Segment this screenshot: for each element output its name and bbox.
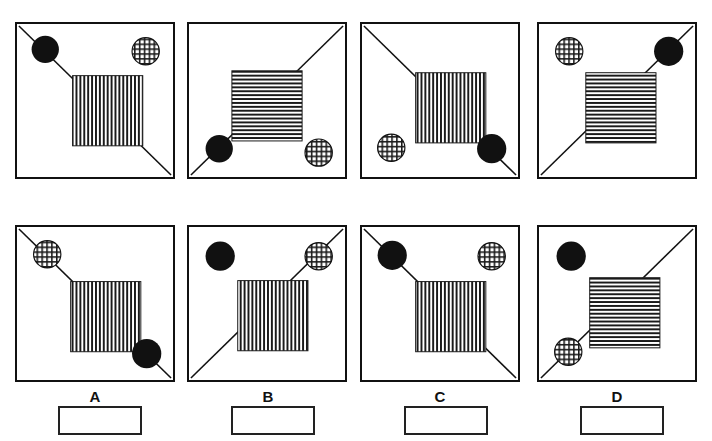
answer-box-d[interactable]	[580, 406, 664, 435]
panel-option-d[interactable]	[537, 225, 697, 382]
panel-option-c-graphic	[362, 227, 518, 380]
panel-option-d-graphic	[539, 227, 695, 380]
solid-black-circle	[206, 242, 235, 271]
panel-top-2-graphic	[189, 24, 345, 177]
vertical-striped-square	[416, 282, 486, 352]
horizontal-striped-square	[232, 71, 302, 141]
vertical-striped-square	[416, 73, 486, 143]
checkered-circle	[555, 338, 582, 365]
answer-box-c[interactable]	[404, 406, 488, 435]
panel-option-a[interactable]	[15, 225, 175, 382]
solid-black-circle	[378, 241, 407, 270]
checkered-circle	[305, 243, 332, 270]
option-label-a: A	[55, 389, 135, 405]
solid-black-circle	[132, 339, 161, 368]
solid-black-circle	[206, 135, 233, 162]
checkered-circle	[34, 241, 61, 268]
panel-top-3-graphic	[362, 24, 518, 177]
solid-black-circle	[654, 37, 683, 66]
panel-option-b[interactable]	[187, 225, 347, 382]
panel-option-b-graphic	[189, 227, 345, 380]
checkered-circle	[132, 38, 159, 65]
horizontal-striped-square	[586, 73, 656, 143]
checkered-circle	[478, 243, 505, 270]
answer-box-a[interactable]	[58, 406, 142, 435]
checkered-circle	[378, 134, 405, 161]
vertical-striped-square	[73, 76, 143, 146]
answer-box-b[interactable]	[231, 406, 315, 435]
panel-top-1-graphic	[17, 24, 173, 177]
horizontal-striped-square	[590, 278, 660, 348]
option-label-b: B	[228, 389, 308, 405]
panel-top-4-graphic	[539, 24, 695, 177]
panel-top-2	[187, 22, 347, 179]
panel-top-3	[360, 22, 520, 179]
checkered-circle	[305, 139, 332, 166]
vertical-striped-square	[71, 282, 141, 352]
option-label-c: C	[400, 389, 480, 405]
option-label-d: D	[577, 389, 657, 405]
cropped-title-strip	[0, 0, 712, 10]
solid-black-circle	[32, 36, 59, 63]
panel-option-a-graphic	[17, 227, 173, 380]
vertical-striped-square	[238, 281, 308, 351]
checkered-circle	[556, 38, 583, 65]
panel-top-1	[15, 22, 175, 179]
panel-option-c[interactable]	[360, 225, 520, 382]
solid-black-circle	[477, 134, 506, 163]
figure-canvas: A B C D	[0, 0, 712, 441]
solid-black-circle	[557, 242, 586, 271]
panel-top-4	[537, 22, 697, 179]
